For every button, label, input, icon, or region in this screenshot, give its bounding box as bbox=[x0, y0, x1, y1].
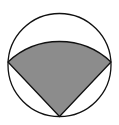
shaded-sector bbox=[8, 42, 111, 117]
geometry-diagram bbox=[0, 0, 119, 125]
